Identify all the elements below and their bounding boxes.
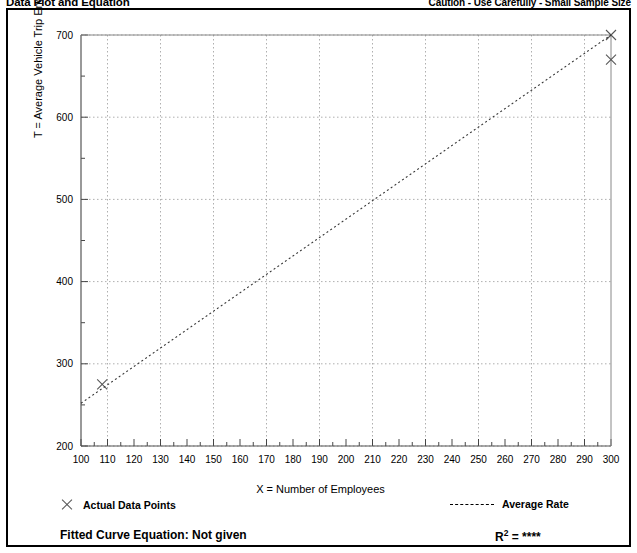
grid-lines [81, 35, 611, 446]
r-squared-prefix: R [495, 530, 504, 544]
svg-text:250: 250 [470, 454, 487, 465]
svg-text:270: 270 [523, 454, 540, 465]
dashed-line-icon [450, 504, 494, 505]
fitted-curve-equation: Fitted Curve Equation: Not given [60, 528, 247, 542]
svg-text:160: 160 [232, 454, 249, 465]
svg-text:220: 220 [391, 454, 408, 465]
svg-text:190: 190 [311, 454, 328, 465]
legend-item-average-rate: Average Rate [450, 498, 569, 510]
chart-legend: Actual Data Points Average Rate [8, 498, 633, 524]
svg-text:600: 600 [56, 112, 73, 123]
x-marker-icon [60, 498, 74, 512]
r-squared-exponent: 2 [504, 528, 509, 538]
svg-text:240: 240 [444, 454, 461, 465]
x-axis-label: X = Number of Employees [8, 483, 633, 495]
chart-panel: 1001101201301401501601701801902002102202… [6, 8, 631, 547]
svg-text:140: 140 [179, 454, 196, 465]
svg-text:120: 120 [126, 454, 143, 465]
svg-text:260: 260 [497, 454, 514, 465]
svg-text:280: 280 [550, 454, 567, 465]
svg-text:200: 200 [338, 454, 355, 465]
page-title: Data Plot and Equation [6, 0, 130, 8]
tick-labels: 1001101201301401501601701801902002102202… [56, 30, 619, 466]
plot-area: 1001101201301401501601701801902002102202… [8, 10, 633, 490]
r-squared-value: R2 = **** [495, 528, 541, 544]
legend-label-actual-data-points: Actual Data Points [83, 499, 176, 511]
svg-text:200: 200 [56, 441, 73, 452]
svg-text:300: 300 [603, 454, 620, 465]
legend-label-average-rate: Average Rate [502, 498, 569, 510]
legend-item-actual-data-points: Actual Data Points [60, 498, 176, 512]
svg-text:290: 290 [576, 454, 593, 465]
data-series [81, 30, 616, 403]
svg-text:230: 230 [417, 454, 434, 465]
svg-text:150: 150 [205, 454, 222, 465]
scatter-plot-svg: 1001101201301401501601701801902002102202… [8, 10, 633, 490]
svg-text:100: 100 [73, 454, 90, 465]
r-squared-number: = **** [512, 530, 541, 544]
y-axis-label: T = Average Vehicle Trip Ends [32, 120, 44, 138]
svg-text:300: 300 [56, 358, 73, 369]
svg-text:700: 700 [56, 30, 73, 41]
equation-row: Fitted Curve Equation: Not given R2 = **… [8, 528, 633, 553]
svg-text:500: 500 [56, 194, 73, 205]
svg-text:180: 180 [285, 454, 302, 465]
svg-text:170: 170 [258, 454, 275, 465]
svg-text:110: 110 [100, 454, 116, 465]
svg-text:210: 210 [364, 454, 381, 465]
svg-text:400: 400 [56, 276, 73, 287]
svg-text:130: 130 [152, 454, 169, 465]
caution-note: Caution - Use Carefully - Small Sample S… [429, 0, 631, 8]
